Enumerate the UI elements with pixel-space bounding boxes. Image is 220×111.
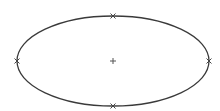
ellipse-diagram bbox=[0, 0, 220, 111]
center-plus-icon bbox=[110, 58, 116, 64]
